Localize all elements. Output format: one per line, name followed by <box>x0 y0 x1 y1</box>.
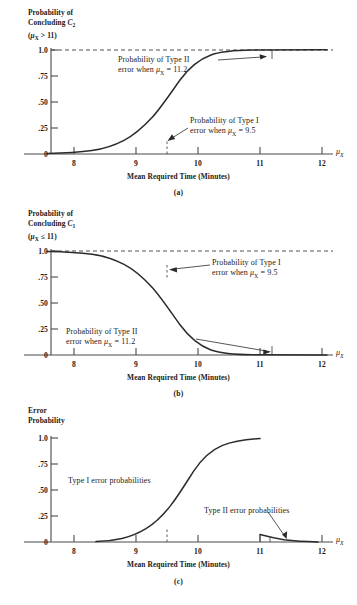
panel-c-x-tick-9: 9 <box>126 547 146 556</box>
panel-a-y-tick-.25: .25 <box>24 124 48 133</box>
panel-c-x-tick-11: 11 <box>250 547 270 556</box>
panel-c-curve-type-ii <box>260 535 318 542</box>
panel-b-x-axis-variable: μX <box>336 348 344 359</box>
panel-a-x-tick-8: 8 <box>64 159 84 168</box>
panel-a-y-tick-.50: .50 <box>24 98 48 107</box>
panel-a-leader-type-ii <box>218 57 262 60</box>
panel-b-y-tick-.50: .50 <box>24 299 48 308</box>
panel-b-y-tick-.75: .75 <box>24 273 48 282</box>
panel-c-y-tick-1.0: 1.0 <box>24 434 48 443</box>
panel-b-leader-type-ii <box>196 339 266 351</box>
panel-b-leader-type-i <box>174 265 210 269</box>
panel-c-y-tick-.25: .25 <box>24 512 48 521</box>
panel-b-x-axis-title: Mean Required Time (Minutes) <box>0 373 357 382</box>
panel-a-leader-type-i <box>172 128 188 138</box>
panel-c-y-tick-0: 0 <box>24 538 48 547</box>
panel-c-x-tick-12: 12 <box>312 547 332 556</box>
panel-a-y-ticks <box>51 50 58 128</box>
panel-c-y-ticks <box>51 438 58 516</box>
panel-b-x-tick-8: 8 <box>64 360 84 369</box>
panel-a-x-ticks <box>74 147 322 154</box>
panel-a-x-tick-10: 10 <box>188 159 208 168</box>
panel-b-y-tick-0: 0 <box>24 351 48 360</box>
panel-a-x-axis-variable: μX <box>336 147 344 158</box>
panel-a-arrow-type-ii <box>260 54 268 59</box>
panel-c-x-axis-variable: μX <box>336 535 344 546</box>
panel-b: Probability of Concluding C1 (μX ≤ 11) <box>0 203 357 403</box>
panel-a-annotation-type-ii: Probability of Type II error when μX = 1… <box>118 55 189 78</box>
panel-a-x-axis-title: Mean Required Time (Minutes) <box>0 172 357 181</box>
panel-a-y-tick-.75: .75 <box>24 72 48 81</box>
panel-b-y-tick-1.0: 1.0 <box>24 247 48 256</box>
panel-b-y-ticks <box>51 251 58 329</box>
panel-b-x-tick-12: 12 <box>312 360 332 369</box>
panel-b-arrow-type-i <box>169 267 177 272</box>
panel-c-y-tick-.75: .75 <box>24 460 48 469</box>
panel-b-caption: (b) <box>0 389 357 398</box>
panel-b-arrow-type-ii <box>263 350 271 355</box>
panel-a-x-tick-11: 11 <box>250 159 270 168</box>
panel-b-x-tick-9: 9 <box>126 360 146 369</box>
panel-a-arrow-type-i <box>168 134 176 141</box>
panel-a: Probability of Concluding C2 (μX > 11) <box>0 2 357 202</box>
panel-a-y-tick-0: 0 <box>24 150 48 159</box>
panel-a-x-tick-9: 9 <box>126 159 146 168</box>
panel-a-y-tick-1.0: 1.0 <box>24 46 48 55</box>
panel-a-caption: (a) <box>0 188 357 197</box>
panel-b-y-tick-.25: .25 <box>24 325 48 334</box>
panel-c-x-tick-10: 10 <box>188 547 208 556</box>
panel-c-y-tick-.50: .50 <box>24 486 48 495</box>
panel-c: Error Probability <box>0 400 357 600</box>
panel-c-curve-type-i <box>96 439 260 542</box>
panel-c-x-tick-8: 8 <box>64 547 84 556</box>
panel-a-annotation-type-i: Probability of Type I error when μX = 9.… <box>190 116 259 139</box>
figure-operating-characteristic-curves: Probability of Concluding C2 (μX > 11) <box>0 0 357 605</box>
panel-c-x-axis-title: Mean Required Time (Minutes) <box>0 560 357 569</box>
panel-a-x-tick-12: 12 <box>312 159 332 168</box>
panel-c-arrow-type-ii <box>282 531 287 539</box>
panel-c-plot <box>0 400 357 600</box>
panel-b-x-tick-11: 11 <box>250 360 270 369</box>
panel-c-annotation-type-i: Type I error probabilities <box>68 476 151 486</box>
panel-c-annotation-type-ii: Type II error probabilities <box>204 506 289 516</box>
panel-b-annotation-type-ii: Probability of Type II error when μX = 1… <box>66 327 137 350</box>
panel-b-x-tick-10: 10 <box>188 360 208 369</box>
panel-b-annotation-type-i: Probability of Type I error when μX = 9.… <box>212 258 281 281</box>
panel-c-caption: (c) <box>0 577 357 586</box>
